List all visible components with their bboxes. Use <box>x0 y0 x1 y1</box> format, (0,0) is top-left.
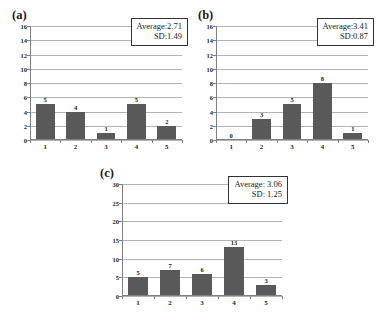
bar-value-label: 0 <box>230 132 233 139</box>
bar <box>127 104 146 139</box>
x-axis-tick-label: 5 <box>264 299 268 307</box>
y-axis-tick-label: 10 <box>113 255 120 262</box>
x-axis-tick-label: 1 <box>136 299 140 307</box>
bar <box>157 126 176 139</box>
y-axis-tick-label: 0 <box>24 137 27 144</box>
y-axis-tick-label: 8 <box>24 80 27 87</box>
x-axis-line <box>30 139 182 140</box>
bar-value-label: 3 <box>260 111 263 118</box>
gridline <box>30 97 182 98</box>
gridline <box>122 296 282 297</box>
x-axis-tick-mark <box>277 140 278 143</box>
bar-value-label: 1 <box>104 125 107 132</box>
y-axis-tick-label: 14 <box>207 37 214 44</box>
gridline <box>122 221 282 222</box>
bar-value-label: 3 <box>264 277 267 284</box>
x-axis-tick-label: 2 <box>260 143 264 151</box>
y-axis-tick-label: 4 <box>24 108 27 115</box>
panel-c-average: Average: 3.06 <box>234 179 282 189</box>
panel-b-stats-box: Average:3.41 SD:0.87 <box>317 18 374 46</box>
x-axis-tick-label: 5 <box>165 143 169 151</box>
y-axis-line <box>122 184 123 296</box>
gridline <box>216 55 368 56</box>
y-axis-tick-label: 16 <box>21 23 28 30</box>
x-axis-tick-label: 4 <box>321 143 325 151</box>
x-axis-tick-mark <box>246 140 247 143</box>
x-axis-tick-mark <box>218 296 219 299</box>
y-axis-tick-label: 8 <box>210 80 213 87</box>
x-axis-tick-mark <box>121 140 122 143</box>
y-axis-tick-label: 0 <box>116 293 119 300</box>
x-axis-tick-label: 4 <box>135 143 139 151</box>
y-axis-tick-label: 2 <box>24 122 27 129</box>
bar-value-label: 6 <box>200 266 203 273</box>
y-axis-tick-label: 12 <box>207 51 214 58</box>
x-axis-tick-mark <box>338 140 339 143</box>
y-axis-tick-label: 6 <box>24 94 27 101</box>
panel-b-label: (b) <box>198 8 213 23</box>
bar-value-label: 8 <box>321 75 324 82</box>
x-axis-tick-mark <box>154 296 155 299</box>
x-axis-tick-label: 5 <box>351 143 355 151</box>
bar-value-label: 4 <box>74 104 77 111</box>
x-axis-line <box>122 295 282 296</box>
bar <box>97 133 116 139</box>
x-axis-line <box>216 139 368 140</box>
gridline <box>122 240 282 241</box>
x-axis-tick-mark <box>91 140 92 143</box>
panel-b-average: Average:3.41 <box>323 21 368 31</box>
x-axis-tick-label: 3 <box>290 143 294 151</box>
bar <box>192 274 212 295</box>
x-axis-tick-mark <box>30 140 31 143</box>
x-axis-tick-mark <box>250 296 251 299</box>
x-axis-tick-label: 1 <box>229 143 233 151</box>
bar <box>343 133 362 139</box>
panel-c-stats-box: Average: 3.06 SD: 1.25 <box>228 176 288 204</box>
y-axis-tick-label: 2 <box>210 122 213 129</box>
bar <box>160 270 180 295</box>
x-axis-tick-label: 4 <box>232 299 236 307</box>
y-axis-tick-label: 15 <box>113 237 120 244</box>
y-axis-tick-label: 4 <box>210 108 213 115</box>
gridline <box>216 83 368 84</box>
y-axis-tick-label: 0 <box>210 137 213 144</box>
panel-a-average: Average:2.71 <box>137 21 182 31</box>
x-axis-tick-mark <box>282 296 283 299</box>
panel-c: (c) 05101520253051726313435 Average: 3.0… <box>92 164 292 320</box>
panel-a-sd: SD:1.49 <box>137 31 182 41</box>
x-axis-tick-mark <box>152 140 153 143</box>
y-axis-tick-label: 30 <box>113 181 120 188</box>
figure-bar-charts: (a) 02468101214165142135425 Average:2.71… <box>0 0 376 322</box>
y-axis-line <box>216 26 217 140</box>
y-axis-tick-label: 20 <box>113 218 120 225</box>
bar-value-label: 5 <box>136 269 139 276</box>
x-axis-tick-label: 1 <box>43 143 47 151</box>
bar <box>256 285 276 295</box>
x-axis-tick-label: 3 <box>200 299 204 307</box>
bar-value-label: 1 <box>351 125 354 132</box>
x-axis-tick-mark <box>122 296 123 299</box>
bar <box>66 112 85 140</box>
y-axis-tick-label: 10 <box>207 65 214 72</box>
gridline <box>216 140 368 141</box>
x-axis-tick-mark <box>307 140 308 143</box>
x-axis-tick-mark <box>182 140 183 143</box>
x-axis-tick-label: 2 <box>168 299 172 307</box>
gridline <box>30 55 182 56</box>
gridline <box>30 69 182 70</box>
gridline <box>216 69 368 70</box>
gridline <box>122 259 282 260</box>
bar-value-label: 2 <box>165 118 168 125</box>
x-axis-tick-mark <box>216 140 217 143</box>
bar-value-label: 5 <box>290 96 293 103</box>
bar <box>224 247 244 295</box>
x-axis-tick-mark <box>368 140 369 143</box>
bar-value-label: 5 <box>44 96 47 103</box>
bar-value-label: 13 <box>231 239 238 246</box>
bar <box>313 83 332 139</box>
y-axis-tick-label: 12 <box>21 51 28 58</box>
gridline <box>30 83 182 84</box>
y-axis-tick-label: 6 <box>210 94 213 101</box>
x-axis-tick-mark <box>60 140 61 143</box>
panel-b: (b) 02468101214160132538415 Average:3.41… <box>190 6 376 162</box>
